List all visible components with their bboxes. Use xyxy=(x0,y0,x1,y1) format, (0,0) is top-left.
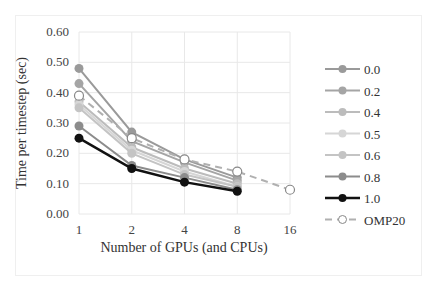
y-tick-label: 0.60 xyxy=(46,24,69,39)
series-0-2 xyxy=(75,79,242,185)
legend-label: 1.0 xyxy=(364,191,380,206)
x-tick-label: 8 xyxy=(234,222,241,237)
x-tick-label: 2 xyxy=(129,222,136,237)
legend-label: 0.0 xyxy=(364,62,380,77)
y-tick-label: 0.50 xyxy=(46,54,69,69)
legend-marker xyxy=(339,130,347,138)
y-tick-label: 0.10 xyxy=(46,176,69,191)
data-point xyxy=(75,103,84,112)
y-axis-ticks: 0.000.100.200.300.400.500.60 xyxy=(46,24,69,221)
data-point xyxy=(75,122,84,131)
legend-marker xyxy=(339,216,347,224)
data-point xyxy=(233,187,242,196)
y-tick-label: 0.20 xyxy=(46,145,69,160)
legend-item-0-6: 0.6 xyxy=(325,148,381,163)
legend-item-omp20: OMP20 xyxy=(325,213,405,228)
legend-item-0-2: 0.2 xyxy=(325,84,380,99)
legend-label: 0.4 xyxy=(364,105,381,120)
legend-item-0-0: 0.0 xyxy=(325,62,380,77)
data-point xyxy=(180,155,189,164)
legend-item-0-4: 0.4 xyxy=(325,105,381,120)
legend-item-1-0: 1.0 xyxy=(325,191,380,206)
legend-marker xyxy=(339,108,347,116)
legend-marker xyxy=(339,87,347,95)
legend-label: 0.5 xyxy=(364,127,380,142)
data-point xyxy=(180,178,189,187)
legend-marker xyxy=(339,194,347,202)
legend-label: OMP20 xyxy=(364,213,405,228)
data-point xyxy=(75,64,84,73)
y-axis-label: Time per timestep (sec) xyxy=(14,57,30,189)
data-point xyxy=(75,134,84,143)
legend-label: 0.6 xyxy=(364,148,381,163)
y-tick-label: 0.40 xyxy=(46,85,69,100)
legend-label: 0.2 xyxy=(364,84,380,99)
data-point xyxy=(75,79,84,88)
y-tick-label: 0.00 xyxy=(46,206,69,221)
data-point xyxy=(286,185,295,194)
legend-marker xyxy=(339,151,347,159)
y-tick-label: 0.30 xyxy=(46,115,69,130)
data-point xyxy=(127,134,136,143)
x-axis-ticks: 124816 xyxy=(76,222,297,237)
data-point xyxy=(127,164,136,173)
line-chart: 0.000.100.200.300.400.500.60 124816 0.00… xyxy=(0,0,437,288)
legend-marker xyxy=(339,65,347,73)
data-point xyxy=(127,149,136,158)
legend-item-0-5: 0.5 xyxy=(325,127,380,142)
legend-item-0-8: 0.8 xyxy=(325,170,380,185)
gridlines xyxy=(79,32,290,214)
legend-label: 0.8 xyxy=(364,170,380,185)
x-tick-label: 4 xyxy=(181,222,188,237)
x-axis-label: Number of GPUs (and CPUs) xyxy=(100,240,268,256)
legend-marker xyxy=(339,173,347,181)
data-point xyxy=(233,167,242,176)
data-point xyxy=(75,91,84,100)
legend: 0.00.20.40.50.60.81.0OMP20 xyxy=(325,62,405,228)
x-tick-label: 16 xyxy=(284,222,298,237)
x-tick-label: 1 xyxy=(76,222,83,237)
